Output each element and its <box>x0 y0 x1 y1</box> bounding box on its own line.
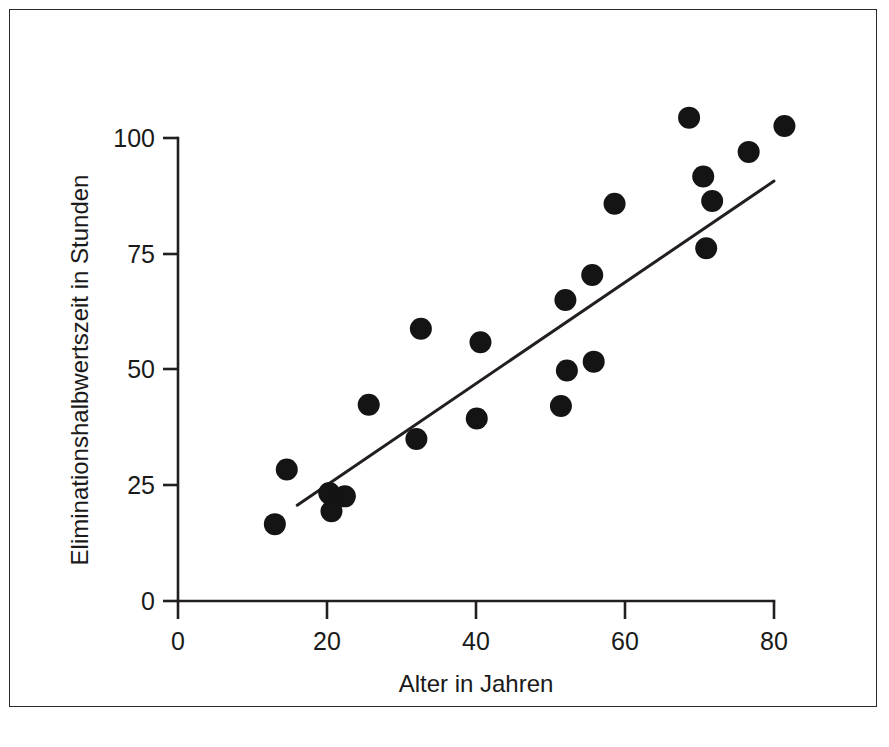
data-point <box>469 331 491 353</box>
x-tick-label-40: 40 <box>462 627 490 655</box>
x-tick-label-80: 80 <box>760 627 788 655</box>
data-point <box>264 513 286 535</box>
y-tick-label-50: 50 <box>127 355 155 383</box>
data-point <box>466 408 488 430</box>
x-tick-label-0: 0 <box>171 627 185 655</box>
data-point <box>738 141 760 163</box>
figure-page: 100 75 50 25 0 0 20 40 60 80 Alter in Ja… <box>0 0 889 747</box>
data-point <box>358 394 380 416</box>
data-point <box>604 193 626 215</box>
data-point <box>556 359 578 381</box>
scatter-plot: 100 75 50 25 0 0 20 40 60 80 Alter in Ja… <box>10 10 876 706</box>
data-point <box>550 395 572 417</box>
data-point <box>583 351 605 373</box>
x-tick-label-60: 60 <box>611 627 639 655</box>
y-tick-label-25: 25 <box>127 471 155 499</box>
x-axis-title: Alter in Jahren <box>399 670 554 697</box>
data-point <box>695 237 717 259</box>
data-point <box>692 165 714 187</box>
y-tick-label-75: 75 <box>127 240 155 268</box>
data-point <box>334 485 356 507</box>
regression-line <box>297 181 774 505</box>
data-point <box>276 459 298 481</box>
figure-frame: 100 75 50 25 0 0 20 40 60 80 Alter in Ja… <box>9 9 877 707</box>
x-axis-ticks <box>178 601 774 619</box>
data-point <box>581 264 603 286</box>
data-point <box>410 318 432 340</box>
data-point <box>773 115 795 137</box>
x-tick-label-20: 20 <box>313 627 341 655</box>
data-point-group <box>264 107 796 536</box>
y-tick-label-100: 100 <box>113 124 155 152</box>
data-point <box>701 190 723 212</box>
data-point <box>554 289 576 311</box>
data-point <box>405 428 427 450</box>
data-point <box>678 107 700 129</box>
y-axis-ticks <box>163 138 178 601</box>
y-axis-title: Eliminationshalbwertszeit in Stunden <box>66 175 93 566</box>
y-tick-label-0: 0 <box>141 587 155 615</box>
